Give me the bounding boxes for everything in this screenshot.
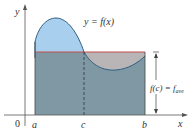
tick-label-a: a bbox=[32, 119, 37, 130]
diagram: y x 0 a c b y = f(x) f(c) = fave bbox=[0, 0, 196, 133]
curve-label: y = f(x) bbox=[83, 16, 115, 28]
y-axis-arrow-icon bbox=[23, 4, 27, 10]
x-axis-arrow-icon bbox=[182, 113, 188, 117]
arrow-down-icon bbox=[154, 109, 158, 114]
tick-label-b: b bbox=[142, 119, 147, 130]
tick-label-c: c bbox=[81, 119, 86, 130]
y-axis-label: y bbox=[14, 6, 20, 17]
origin-label: 0 bbox=[15, 118, 20, 129]
x-axis-label: x bbox=[177, 118, 183, 129]
arrow-up-icon bbox=[154, 53, 158, 58]
